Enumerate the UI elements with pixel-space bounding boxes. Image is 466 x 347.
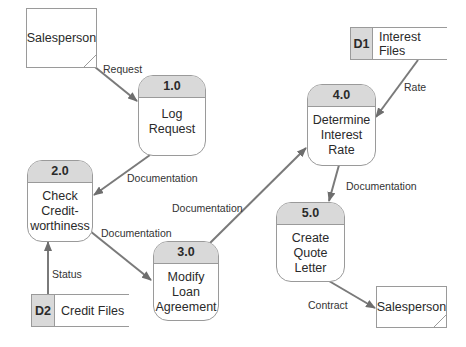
external-entity-salesperson-source: Salesperson (26, 8, 97, 68)
process-label-line: worthiness (28, 219, 92, 234)
process-label-line: Request (139, 122, 205, 137)
process-label-line: Credit- (28, 204, 92, 219)
process-3-modify-loan-agreement: 3.0 Modify Loan Agreement (153, 241, 219, 321)
process-label-line: Interest (308, 128, 375, 143)
process-number: 3.0 (154, 242, 218, 264)
process-label-line: Quote (277, 246, 344, 261)
flow-label-documentation-2-3: Documentation (101, 227, 172, 239)
flow-label-rate: Rate (404, 81, 426, 93)
data-store-label: Interest Files (373, 28, 447, 59)
flow-label-documentation-4-5: Documentation (346, 180, 417, 192)
entity-corner-mark (434, 315, 446, 327)
process-label-line: Rate (308, 143, 375, 158)
process-label-line: Log (139, 107, 205, 122)
process-4-determine-interest-rate: 4.0 Determine Interest Rate (307, 84, 376, 166)
process-label-line: Determine (308, 113, 375, 128)
process-label-line: Loan (154, 285, 218, 300)
data-store-id: D2 (31, 295, 55, 326)
entity-corner-mark (84, 55, 96, 67)
flow-label-status: Status (52, 268, 82, 280)
process-number: 2.0 (28, 161, 92, 183)
process-label-line: Modify (154, 270, 218, 285)
process-1-log-request: 1.0 Log Request (138, 75, 206, 156)
data-store-d1-interest-files: D1 Interest Files (350, 27, 447, 60)
process-number: 5.0 (277, 203, 344, 225)
flow-label-request: Request (103, 63, 142, 75)
process-label-line: Check (28, 189, 92, 204)
process-label-line: Create (277, 231, 344, 246)
entity-label: Salesperson (377, 300, 447, 314)
flow-label-documentation-3-4: Documentation (172, 202, 243, 214)
process-label-line: Letter (277, 261, 344, 276)
data-store-id: D1 (350, 28, 373, 59)
process-number: 4.0 (308, 85, 375, 107)
process-2-check-creditworthiness: 2.0 Check Credit- worthiness (27, 160, 93, 242)
flow-label-documentation-1-2: Documentation (127, 172, 198, 184)
data-store-d2-credit-files: D2 Credit Files (31, 294, 129, 327)
entity-label: Salesperson (27, 31, 97, 45)
data-flow-diagram: Salesperson Salesperson 1.0 Log Request … (0, 0, 466, 347)
external-entity-salesperson-sink: Salesperson (376, 286, 447, 328)
process-label-line: Agreement (154, 300, 218, 315)
process-5-create-quote-letter: 5.0 Create Quote Letter (276, 202, 345, 282)
flow-doc-4-5-arrow (329, 165, 339, 201)
data-store-label: Credit Files (55, 295, 124, 326)
process-number: 1.0 (139, 76, 205, 98)
flow-label-contract: Contract (308, 299, 348, 311)
